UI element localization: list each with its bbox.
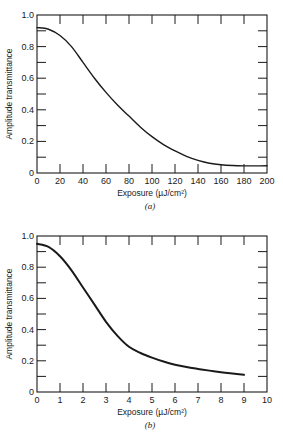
y-tick-label: 1.0 <box>21 10 34 20</box>
x-tick-label: 7 <box>195 395 200 405</box>
x-tick-label: 2 <box>80 395 85 405</box>
x-tick-label: 10 <box>262 395 272 405</box>
y-tick-label: 0.4 <box>21 105 34 115</box>
y-tick-label: 0.2 <box>21 356 34 366</box>
x-tick-label: 40 <box>78 176 88 186</box>
x-tick-label: 100 <box>144 176 159 186</box>
x-tick-label: 180 <box>236 176 251 186</box>
y-tick-label: 0 <box>29 387 34 397</box>
chart-panel-b: 01234567891000.20.40.60.81.0Exposure (µJ… <box>4 231 272 430</box>
data-curve <box>37 244 244 375</box>
y-tick-label: 0.6 <box>21 293 34 303</box>
figure-caption: (b) <box>145 420 156 430</box>
x-tick-label: 0 <box>34 176 39 186</box>
y-tick-label: 1.0 <box>21 231 34 241</box>
chart-panel-a: 02040608010012014016018020000.20.40.60.8… <box>4 10 275 211</box>
y-axis-label: Amplitude transmittance <box>4 48 14 139</box>
x-tick-label: 1 <box>57 395 62 405</box>
x-tick-label: 9 <box>241 395 246 405</box>
y-axis-label: Amplitude transmittance <box>4 268 14 359</box>
figure: 02040608010012014016018020000.20.40.60.8… <box>0 0 283 442</box>
x-tick-label: 5 <box>149 395 154 405</box>
y-tick-label: 0.6 <box>21 73 34 83</box>
y-tick-label: 0.8 <box>21 262 34 272</box>
x-tick-label: 8 <box>218 395 223 405</box>
x-tick-label: 6 <box>172 395 177 405</box>
x-tick-label: 140 <box>190 176 205 186</box>
x-tick-label: 20 <box>55 176 65 186</box>
plot-frame <box>37 15 267 173</box>
plot-frame <box>37 236 267 392</box>
x-tick-label: 3 <box>103 395 108 405</box>
x-tick-label: 120 <box>167 176 182 186</box>
data-curve <box>37 28 267 166</box>
x-tick-label: 200 <box>259 176 274 186</box>
y-tick-label: 0.4 <box>21 325 34 335</box>
y-tick-label: 0.8 <box>21 42 34 52</box>
y-tick-label: 0.2 <box>21 136 34 146</box>
x-axis-label: Exposure (µJ/cm²) <box>117 188 187 198</box>
x-tick-label: 60 <box>101 176 111 186</box>
x-tick-label: 0 <box>34 395 39 405</box>
x-tick-label: 80 <box>124 176 134 186</box>
x-tick-label: 160 <box>213 176 228 186</box>
x-axis-label: Exposure (µJ/cm²) <box>117 407 187 417</box>
figure-caption: (a) <box>145 201 156 211</box>
x-tick-label: 4 <box>126 395 131 405</box>
y-tick-label: 0 <box>29 168 34 178</box>
